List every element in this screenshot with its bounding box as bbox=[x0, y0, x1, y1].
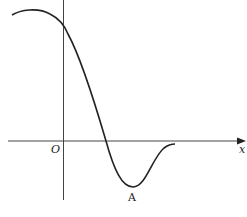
origin-label: O bbox=[51, 143, 60, 156]
function-curve bbox=[12, 10, 175, 187]
point-a-label: A bbox=[127, 191, 137, 204]
x-axis-label: x bbox=[239, 143, 246, 156]
function-graph: O x A bbox=[0, 0, 247, 217]
